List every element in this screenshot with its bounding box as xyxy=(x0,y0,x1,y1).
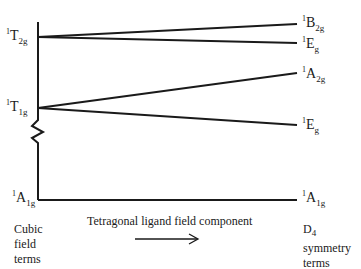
label-sub: 1g xyxy=(316,198,325,208)
label-Eg-lower: 1Eg xyxy=(302,118,319,132)
line-T1g-to-Eg xyxy=(38,108,297,125)
label-sup: 1 xyxy=(6,98,10,107)
energy-axis xyxy=(32,22,43,200)
label-main: T xyxy=(10,28,19,43)
label-sub: g xyxy=(315,44,320,54)
label-A1g-right: 1A1g xyxy=(302,191,325,205)
label-sup: 1 xyxy=(12,189,16,198)
caption-line: terms xyxy=(303,256,351,269)
label-A2g: 1A2g xyxy=(302,67,325,81)
label-sub: 2g xyxy=(19,36,28,46)
label-sub: g xyxy=(315,125,320,135)
label-main: A xyxy=(16,190,26,205)
label-T2g: 1T2g xyxy=(6,29,28,43)
label-sup: 1 xyxy=(302,65,306,74)
caption-main: D xyxy=(303,222,312,236)
caption-line: terms xyxy=(14,252,43,267)
cubic-field-caption: Cubic field terms xyxy=(14,222,43,267)
label-main: A xyxy=(306,66,316,81)
caption-line: symmetry xyxy=(303,241,351,256)
label-sub: 2g xyxy=(316,74,325,84)
label-sup: 1 xyxy=(6,27,10,36)
label-sup: 1 xyxy=(302,35,306,44)
label-sub: 1g xyxy=(19,107,28,117)
label-sub: 1g xyxy=(26,198,35,208)
label-sup: 1 xyxy=(302,14,306,23)
label-main: E xyxy=(306,117,315,132)
label-main: T xyxy=(10,99,19,114)
label-sup: 1 xyxy=(302,116,306,125)
label-A1g-left: 1A1g xyxy=(12,191,35,205)
label-main: A xyxy=(306,190,316,205)
line-T1g-to-A2g xyxy=(38,73,297,108)
label-sup: 1 xyxy=(302,189,306,198)
axis-label-text: Tetragonal ligand field component xyxy=(87,214,252,228)
caption-line: Cubic xyxy=(14,222,43,237)
label-main: B xyxy=(306,15,315,30)
axis-label: Tetragonal ligand field component xyxy=(87,214,252,229)
caption-line: D4 xyxy=(303,222,351,241)
line-T2g-to-B2g xyxy=(38,24,297,37)
right-arrow-icon xyxy=(135,234,198,244)
caption-line: field xyxy=(14,237,43,252)
line-T2g-to-Eg xyxy=(38,37,297,43)
label-main: E xyxy=(306,36,315,51)
d4-symmetry-caption: D4 symmetry terms xyxy=(303,222,351,269)
label-Eg-upper: 1Eg xyxy=(302,37,319,51)
label-B2g: 1B2g xyxy=(302,16,324,30)
caption-sub: 4 xyxy=(312,228,317,238)
label-T1g: 1T1g xyxy=(6,100,28,114)
label-sub: 2g xyxy=(315,23,324,33)
